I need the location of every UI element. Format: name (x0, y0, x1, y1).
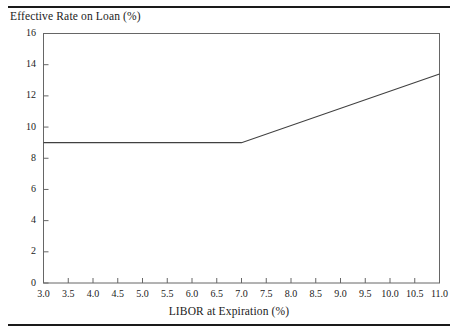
plot-area (0, 0, 458, 336)
y-tick-label: 12 (8, 89, 36, 100)
y-tick-label: 0 (8, 277, 36, 288)
y-tick-label: 2 (8, 245, 36, 256)
y-tick-marks (44, 34, 49, 284)
y-tick-label: 10 (8, 121, 36, 132)
y-tick-label: 4 (8, 214, 36, 225)
y-tick-label: 8 (8, 152, 36, 163)
y-tick-label: 14 (8, 58, 36, 69)
chart-figure: Effective Rate on Loan (%) 0246810121416… (0, 0, 458, 336)
x-tick-label: 11.0 (425, 288, 455, 299)
x-tick-marks (44, 278, 440, 283)
x-axis-title: LIBOR at Expiration (%) (0, 305, 458, 317)
plot-frame (44, 34, 440, 284)
data-series-line (44, 74, 440, 143)
y-tick-label: 6 (8, 183, 36, 194)
y-tick-label: 16 (8, 27, 36, 38)
